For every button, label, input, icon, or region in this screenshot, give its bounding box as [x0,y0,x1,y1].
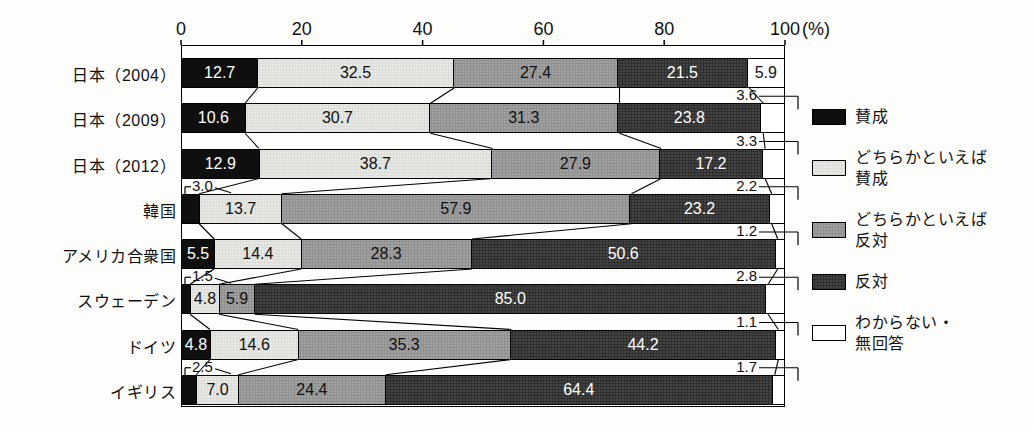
category-label: 韓国 [0,198,176,222]
percent-unit-label: (%) [802,19,830,40]
legend-label: わからない・無回答 [855,312,954,354]
axis-tick-label: 80 [654,19,674,40]
category-label: 日本（2004） [0,62,176,86]
axis-tick-label: 40 [413,19,433,40]
legend-swatch [812,222,846,238]
axis-tick-label: 60 [533,19,553,40]
legend-item: どちらかといえば賛成 [812,147,987,189]
category-label: 日本（2009） [0,107,176,131]
plot-frame [181,45,785,407]
category-label: アメリカ合衆国 [0,243,176,267]
legend-item: 反対 [812,271,987,292]
legend-swatch [812,160,846,176]
legend-swatch [812,109,846,125]
category-label: スウェーデン [0,288,176,312]
category-label: イギリス [0,379,176,403]
legend-label: 賛成 [855,106,888,127]
category-label: 日本（2012） [0,153,176,177]
legend-item: わからない・無回答 [812,312,987,354]
category-label: ドイツ [0,334,176,358]
legend-swatch [812,274,846,290]
legend-item: 賛成 [812,106,987,127]
legend-label: どちらかといえば反対 [855,209,987,251]
legend-label: 反対 [855,271,888,292]
legend-label: どちらかといえば賛成 [855,147,987,189]
axis-tick-label: 0 [176,19,186,40]
legend-item: どちらかといえば反対 [812,209,987,251]
legend-swatch [812,325,846,341]
stacked-bar-chart: 020406080100(%) 日本（2004）12.732.527.421.5… [0,0,1034,431]
legend: 賛成どちらかといえば賛成どちらかといえば反対反対わからない・無回答 [812,106,987,354]
axis-tick-label: 100 [770,19,800,40]
axis-tick-label: 20 [292,19,312,40]
